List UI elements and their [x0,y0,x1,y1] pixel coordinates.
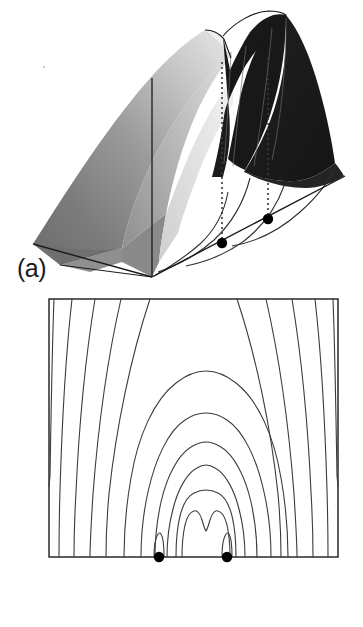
contour-map-svg [0,290,363,627]
charge-marker-left [217,238,227,248]
panel-b-contour-map: (b) [0,290,363,627]
panel-a-label: (a) [17,256,46,281]
surface-left-flank [33,30,219,265]
charge-marker-left [154,552,164,562]
charge-marker-right [222,552,232,562]
figure-root: (a) [0,0,363,627]
surface-plot-svg [0,0,363,295]
panel-a-surface-plot: (a) [0,0,363,295]
charge-marker-right [263,214,273,224]
scan-speck [43,66,45,68]
contour-frame [49,299,338,557]
